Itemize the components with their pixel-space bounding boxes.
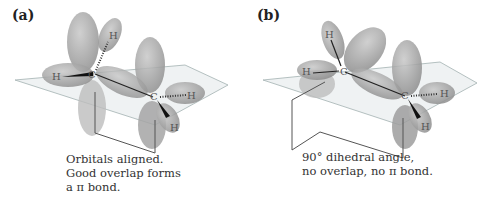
svg-text:H: H (109, 30, 118, 41)
panel-b-perpendicular-orbitals: (b) C C H H H H 90° dihedral angle, (245, 0, 491, 202)
caption-perpendicular: 90° dihedral angle, no overlap, no π bon… (302, 150, 433, 178)
svg-text:C: C (88, 69, 96, 80)
svg-text:H: H (440, 88, 449, 99)
svg-text:C: C (401, 90, 409, 101)
svg-text:H: H (52, 71, 61, 82)
svg-text:H: H (325, 29, 334, 40)
caption-line: a π bond. (66, 180, 181, 194)
caption-line: 90° dihedral angle, (302, 150, 433, 164)
svg-text:H: H (170, 122, 179, 133)
svg-text:H: H (421, 121, 430, 132)
svg-text:C: C (340, 66, 348, 77)
caption-line: no overlap, no π bond. (302, 164, 433, 178)
svg-text:C: C (150, 91, 158, 102)
svg-text:H: H (302, 66, 311, 77)
panel-a-aligned-orbitals: (a) C C H H H H Orbi (0, 0, 245, 202)
svg-text:H: H (187, 90, 196, 101)
caption-line: Orbitals aligned. (66, 152, 181, 166)
caption-line: Good overlap forms (66, 166, 181, 180)
caption-aligned: Orbitals aligned. Good overlap forms a π… (66, 152, 181, 194)
